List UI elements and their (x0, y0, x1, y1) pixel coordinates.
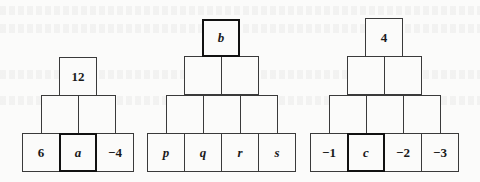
cell-value: −4 (108, 145, 122, 161)
pyramid-cell-top: 12 (59, 57, 97, 96)
cell-value: 12 (72, 69, 85, 85)
pyramid-cell-row3 (403, 95, 441, 134)
pyramid-cell-base: −2 (384, 133, 422, 172)
background-bleed-texture (0, 6, 480, 15)
pyramid-cell-base: s (258, 133, 296, 172)
pyramid-cell-row3 (329, 95, 367, 134)
cell-value: −3 (433, 145, 447, 161)
pyramid-cell-row2 (78, 95, 116, 134)
pyramid-cell-row3 (366, 95, 404, 134)
pyramid-cell-base: r (221, 133, 259, 172)
cell-value: −1 (322, 145, 336, 161)
pyramid-cell-row2 (221, 56, 259, 95)
pyramid-cell-row3 (166, 95, 204, 134)
cell-variable: r (237, 145, 242, 161)
pyramid-cell-base-highlighted: a (59, 133, 97, 172)
pyramid-cell-top: 4 (365, 18, 403, 57)
pyramid-cell-base: p (147, 133, 185, 172)
cell-value: 6 (38, 145, 45, 161)
cell-value: −2 (396, 145, 410, 161)
pyramid-cell-base: 6 (22, 133, 60, 172)
pyramid-cell-row3 (240, 95, 278, 134)
cell-variable: q (200, 145, 207, 161)
pyramid-cell-row3 (203, 95, 241, 134)
cell-variable: a (75, 145, 82, 161)
pyramid-cell-base: q (184, 133, 222, 172)
pyramid-cell-base: −1 (310, 133, 348, 172)
pyramid-cell-base: −3 (421, 133, 459, 172)
pyramid-cell-base: −4 (96, 133, 134, 172)
cell-variable: p (163, 145, 170, 161)
pyramid-cell-row2 (184, 56, 222, 95)
pyramid-cell-row2 (384, 56, 422, 95)
pyramid-cell-top-highlighted: b (202, 19, 240, 57)
background-bleed-texture (0, 24, 480, 33)
pyramid-cell-row2 (41, 95, 79, 134)
cell-variable: s (274, 145, 279, 161)
pyramid-cell-base-highlighted: c (347, 133, 385, 172)
cell-variable: b (218, 30, 225, 46)
pyramid-cell-row2 (347, 56, 385, 95)
cell-value: 4 (381, 30, 388, 46)
cell-variable: c (363, 145, 369, 161)
